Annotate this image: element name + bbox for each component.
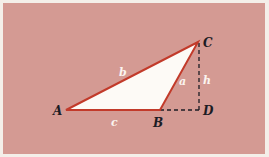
vertex-label-c: C	[203, 36, 213, 50]
diagram-frame: A B C D b a h c	[0, 0, 269, 157]
vertex-label-a: A	[52, 104, 62, 118]
side-label-b: b	[119, 66, 127, 79]
vertex-label-b: B	[152, 116, 163, 130]
vertex-label-d: D	[202, 104, 214, 118]
side-label-c: c	[111, 116, 118, 129]
triangle-diagram: A B C D b a h c	[0, 0, 269, 157]
height-label-h: h	[203, 74, 211, 87]
side-label-a: a	[179, 75, 186, 88]
